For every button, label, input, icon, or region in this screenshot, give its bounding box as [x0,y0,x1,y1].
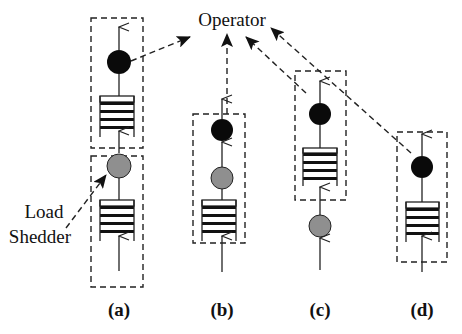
operator-node-c [309,103,331,125]
load-shedder-label-line1: Load [24,201,64,222]
panel-a: Load Shedder (a) [9,18,143,321]
load-shedder-node-a [107,154,131,178]
operator-node-d [411,156,433,178]
panel-b: (b) [193,99,245,321]
dashed-arrow-a-to-operator [131,37,190,61]
dashed-arrow-c-to-operator [246,37,306,93]
dashed-arrow-d-to-operator [271,28,411,153]
queue-c [303,148,337,186]
panel-d: (d) [397,132,447,321]
queue-a-lower [100,200,134,241]
queue-a-upper [100,96,134,137]
load-shedder-label-line2: Shedder [9,226,72,247]
queue-b [202,200,236,241]
panel-c: (c) [295,71,346,321]
caption-c: (c) [309,299,330,321]
load-shedder-node-c [309,215,331,237]
load-shedder-node-b [211,167,233,189]
caption-a: (a) [108,299,130,321]
operator-node-a [107,50,131,74]
caption-d: (d) [410,299,433,321]
load-shedding-diagram: Operator [0,0,462,334]
operator-label: Operator [198,9,266,30]
caption-b: (b) [210,299,233,321]
operator-node-b [211,119,233,141]
